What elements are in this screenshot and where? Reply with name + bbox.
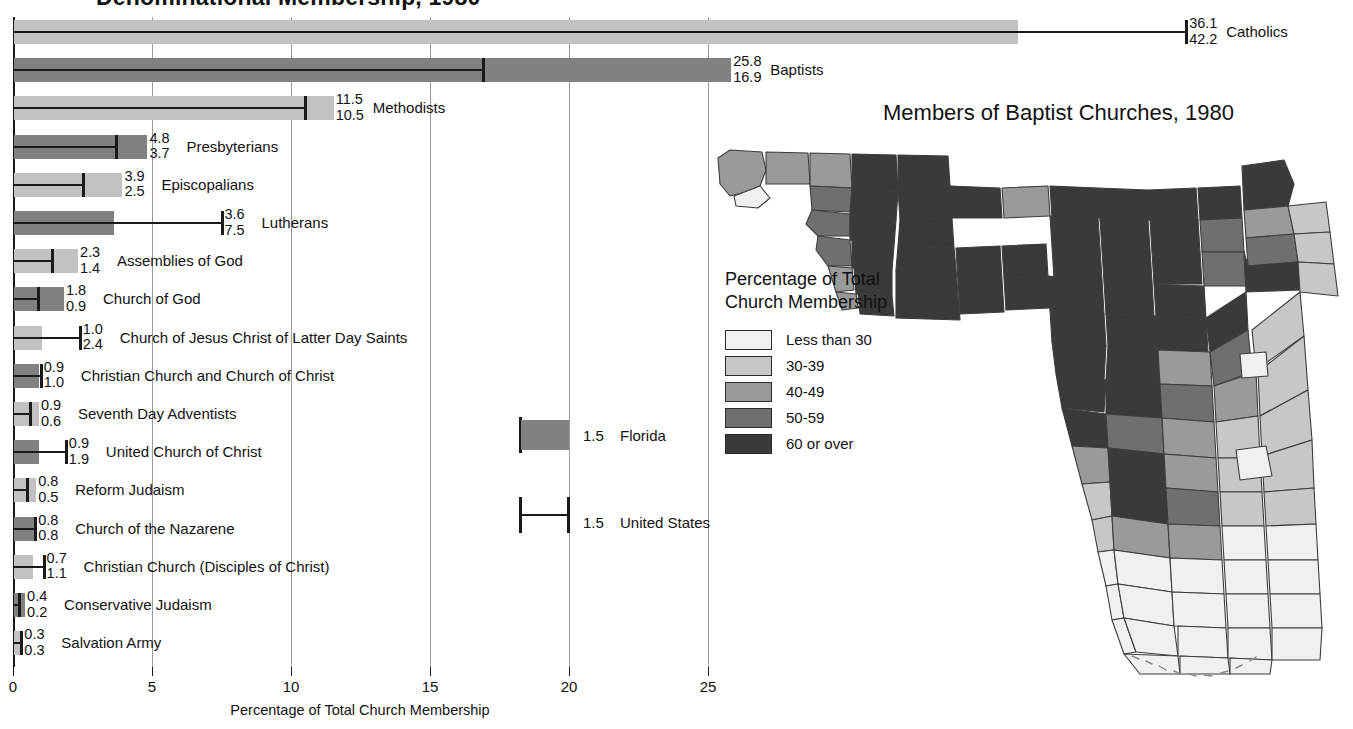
map-county <box>1050 216 1100 248</box>
chart-row: 0.71.1Christian Church (Disciples of Chr… <box>0 552 760 582</box>
map-county <box>1002 244 1048 278</box>
map-county <box>1104 282 1154 316</box>
us-value: 2.5 <box>124 184 144 200</box>
row-label: Lutherans <box>262 214 329 231</box>
map-legend-title: Percentage of Total Church Membership <box>725 268 887 314</box>
legend-florida-label: Florida <box>620 427 666 444</box>
row-values: 0.71.1 <box>47 551 67 582</box>
us-value: 7.5 <box>225 223 245 239</box>
row-values: 0.80.8 <box>38 513 58 544</box>
map-legend-row: 30-39 <box>725 354 887 377</box>
map-county <box>1092 516 1114 552</box>
us-line <box>14 222 223 224</box>
chart-row: 11.510.5Methodists <box>0 93 760 123</box>
map-legend-title-line2: Church Membership <box>725 291 887 314</box>
map-county <box>1264 488 1316 526</box>
map-legend-swatch <box>725 330 772 350</box>
map-panel: Members of Baptist Churches, 1980 Percen… <box>700 0 1353 729</box>
map-county <box>1150 220 1200 252</box>
us-value: 10.5 <box>336 108 364 124</box>
florida-value: 0.9 <box>69 436 89 452</box>
map-county <box>1222 526 1266 560</box>
florida-value: 0.9 <box>44 360 64 376</box>
tick-label-5: 5 <box>148 678 156 695</box>
us-line-cap <box>40 364 43 388</box>
map-county <box>958 280 1004 314</box>
us-line-cap <box>20 631 23 655</box>
map-county <box>806 210 850 236</box>
florida-value: 1.0 <box>83 322 103 338</box>
map-county <box>1102 250 1152 282</box>
row-values: 3.67.5 <box>225 207 245 238</box>
us-line <box>14 528 36 530</box>
us-value: 0.6 <box>41 414 61 430</box>
us-value: 1.4 <box>80 261 100 277</box>
row-values: 1.02.4 <box>83 322 103 353</box>
tick-5 <box>152 667 153 676</box>
us-value: 1.9 <box>69 452 89 468</box>
x-axis-title: Percentage of Total Church Membership <box>13 702 707 718</box>
row-label: Salvation Army <box>61 634 161 651</box>
tick-label-20: 20 <box>561 678 578 695</box>
map-title: Members of Baptist Churches, 1980 <box>883 100 1234 126</box>
us-line-cap <box>482 58 485 82</box>
florida-value: 0.8 <box>38 513 58 529</box>
map-county <box>1100 220 1150 250</box>
tick-15 <box>430 667 431 676</box>
map-legend-swatch <box>725 356 772 376</box>
map-county <box>1236 446 1272 480</box>
map-county <box>1052 246 1102 280</box>
map-county <box>1108 448 1166 488</box>
florida-value: 1.8 <box>66 283 86 299</box>
us-line <box>14 184 84 186</box>
row-label: Conservative Judaism <box>64 596 212 613</box>
legend-florida-value: 1.5 <box>583 427 604 444</box>
map-county <box>1156 316 1208 352</box>
map-county <box>1082 482 1112 520</box>
map-county <box>1240 352 1268 378</box>
map-county <box>1106 380 1162 418</box>
bar-chart-plot: 0510152025 36.142.2Catholics25.816.9Bapt… <box>0 8 760 668</box>
map-county <box>1158 350 1212 386</box>
us-value: 0.3 <box>24 643 44 659</box>
us-line <box>14 337 81 339</box>
us-line-cap <box>65 440 68 464</box>
tick-10 <box>291 667 292 676</box>
us-line-cap <box>79 326 82 350</box>
legend-florida-bar <box>521 420 569 450</box>
map-county <box>1106 314 1158 350</box>
chart-row: 0.30.3Salvation Army <box>0 628 760 658</box>
map-county <box>1288 202 1330 234</box>
tick-label-0: 0 <box>9 678 17 695</box>
us-line <box>14 566 45 568</box>
row-values: 11.510.5 <box>336 92 364 123</box>
florida-value: 0.8 <box>38 474 58 490</box>
chart-row: 25.816.9Baptists <box>0 55 760 85</box>
row-label: Reform Judaism <box>75 481 184 498</box>
us-value: 0.9 <box>66 299 86 315</box>
row-label: Church of God <box>103 290 201 307</box>
map-county <box>1226 594 1270 628</box>
map-legend-label: 40-49 <box>786 383 824 400</box>
map-legend: Percentage of Total Church Membership Le… <box>725 268 887 458</box>
florida-value: 11.5 <box>336 92 364 108</box>
map-county <box>1098 188 1150 220</box>
map-county <box>1056 374 1106 412</box>
florida-value: 3.9 <box>124 169 144 185</box>
map-county <box>1294 232 1334 264</box>
map-legend-label: 60 or over <box>786 435 854 452</box>
map-county <box>810 186 852 212</box>
chart-row: 1.80.9Church of God <box>0 284 760 314</box>
chart-row: 3.67.5Lutherans <box>0 208 760 238</box>
row-values: 0.90.6 <box>41 398 61 429</box>
row-label: Church of Jesus Christ of Latter Day Sai… <box>120 329 408 346</box>
map-county <box>1062 408 1108 448</box>
tick-label-15: 15 <box>422 678 439 695</box>
map-county <box>1198 186 1242 220</box>
us-line-cap <box>26 478 29 502</box>
chart-row: 4.83.7Presbyterians <box>0 132 760 162</box>
map-county <box>1152 252 1202 284</box>
map-county <box>1298 262 1338 296</box>
chart-row: 2.31.4Assemblies of God <box>0 246 760 276</box>
map-county <box>1200 218 1244 252</box>
